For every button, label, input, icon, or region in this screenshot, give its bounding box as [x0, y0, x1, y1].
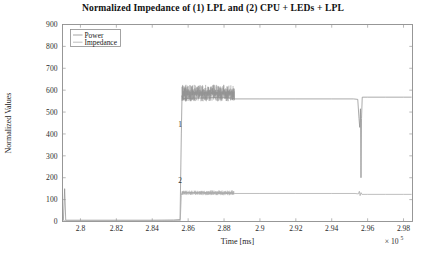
data-series-layer [63, 85, 411, 221]
legend-label-impedance: Impedance [85, 38, 118, 47]
x-axis-tick-label: 2.96 [361, 224, 374, 233]
x-axis-multiplier-exponent: 5 [401, 235, 404, 241]
x-axis-tick-label: 2.84 [146, 224, 159, 233]
x-axis-title: Time [ms] [221, 237, 255, 246]
curve-annotation-1: 1 [178, 120, 182, 129]
y-axis-tick-label: 400 [46, 130, 58, 139]
y-axis-tick-label: 900 [46, 20, 58, 29]
series-noise-band-power [182, 85, 234, 102]
curve-annotation-2: 2 [178, 176, 182, 185]
chart-plot-area: 2.82.822.842.862.882.92.922.942.962.9801… [0, 0, 426, 255]
y-axis-tick-label: 600 [46, 86, 58, 95]
x-axis-tick-label: 2.94 [325, 224, 338, 233]
x-axis-tick-label: 2.88 [217, 224, 230, 233]
x-axis-multiplier: × 10 [385, 237, 399, 246]
figure-canvas: Normalized Impedance of (1) LPL and (2) … [0, 0, 426, 255]
y-axis-tick-label: 200 [46, 173, 58, 182]
x-axis-tick-label: 2.82 [110, 224, 123, 233]
series-noise-band-impedance [182, 190, 234, 195]
y-axis-tick-label: 500 [46, 108, 58, 117]
x-axis-tick-label: 2.8 [76, 224, 86, 233]
y-axis-title: Normalized Values [4, 93, 13, 154]
y-axis-tick-label: 700 [46, 64, 58, 73]
x-axis-tick-label: 2.9 [255, 224, 265, 233]
series-line-power [63, 96, 411, 221]
y-axis-tick-label: 300 [46, 152, 58, 161]
x-axis-tick-label: 2.86 [181, 224, 194, 233]
chart-legend: PowerImpedance [71, 30, 121, 47]
y-axis-tick-label: 100 [46, 195, 58, 204]
series-line-impedance [63, 191, 411, 221]
x-axis-tick-label: 2.98 [397, 224, 410, 233]
y-axis-tick-label: 800 [46, 42, 58, 51]
y-axis-tick-label: 0 [54, 217, 58, 226]
x-axis-tick-label: 2.92 [289, 224, 302, 233]
